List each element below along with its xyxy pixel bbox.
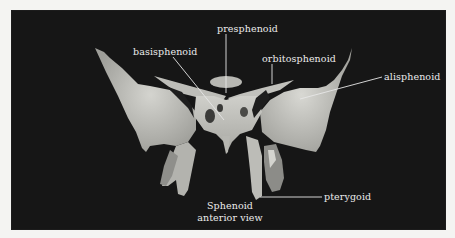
foramen xyxy=(217,104,223,112)
caption-title: Sphenoid xyxy=(190,200,270,212)
orbitosphenoid-label: orbitosphenoid xyxy=(262,53,336,64)
foramen xyxy=(205,109,215,123)
foramen xyxy=(240,107,248,117)
right-pterygoid-plate xyxy=(246,136,262,200)
rostrum xyxy=(222,136,230,154)
figure-caption: Sphenoid anterior view xyxy=(190,200,270,223)
pterygoid-label: pterygoid xyxy=(324,191,371,202)
basisphenoid-label: basisphenoid xyxy=(133,46,198,57)
presphenoid-label: presphenoid xyxy=(217,23,278,34)
caption-subtitle: anterior view xyxy=(190,212,270,224)
alisphenoid-label: alisphenoid xyxy=(384,71,441,82)
